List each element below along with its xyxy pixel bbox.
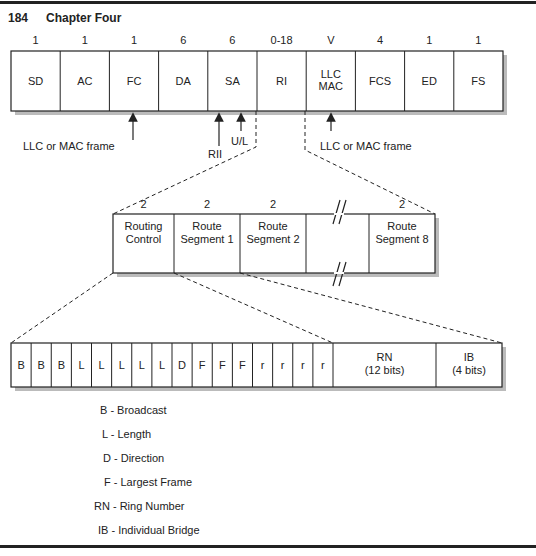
frame-field-llc-mac: LLCMAC — [319, 68, 344, 92]
bit-cell-l: L — [99, 359, 105, 371]
frame-field-sa: SA — [225, 75, 240, 87]
top-rule — [0, 1, 536, 4]
ri-field-label: Routing — [125, 220, 163, 232]
frame-field-size: 6 — [180, 34, 186, 46]
chapter-title: Chapter Four — [46, 11, 122, 25]
bit-cell-r: r — [301, 359, 305, 371]
legend-item: RN - Ring Number — [94, 500, 185, 512]
bit-cell-f: F — [239, 359, 246, 371]
bit-cell-r: r — [281, 359, 285, 371]
frame-field-sd: SD — [28, 75, 43, 87]
page-number: 184 — [8, 11, 28, 25]
frame-field-size: 4 — [377, 34, 383, 46]
frame-field-fcs: FCS — [369, 75, 391, 87]
bit-cell-b: B — [58, 359, 65, 371]
bit-cell-d: D — [178, 359, 186, 371]
legend-item: B - Broadcast — [100, 404, 167, 416]
frame-field-label: FCS — [369, 75, 391, 87]
frame-field-size: 0-18 — [271, 34, 293, 46]
ri-field-size: 2 — [140, 198, 146, 210]
frame-field-ac: AC — [77, 75, 92, 87]
legend-item: IB - Individual Bridge — [98, 524, 200, 536]
frame-field-da: DA — [176, 75, 192, 87]
ri-field-label: Route — [192, 220, 221, 232]
ib-field-label: (4 bits) — [452, 364, 486, 376]
ri-field-label: Route — [387, 220, 416, 232]
rii-label: RII — [208, 148, 222, 160]
frame-field-size: 1 — [426, 34, 432, 46]
bit-cell-l: L — [139, 359, 145, 371]
rn-field-label: RN — [377, 351, 393, 363]
bit-cell-f: F — [219, 359, 226, 371]
ri-field-label: Control — [126, 233, 161, 245]
legend-item: D - Direction — [103, 452, 164, 464]
routing-control-bits: BBBLLLLLDFFFrrrrRN(12 bits)IB(4 bits) — [11, 343, 506, 391]
ib-field-label: IB — [464, 351, 474, 363]
frame-field-label: DA — [176, 75, 192, 87]
right-llc-mac-label: LLC or MAC frame — [320, 140, 412, 152]
bit-cell-b: B — [38, 359, 45, 371]
frame-field-label: ED — [422, 75, 437, 87]
ul-label: U/L — [231, 135, 248, 147]
bit-cell-r: r — [321, 359, 325, 371]
legend: B - BroadcastL - LengthD - DirectionF - … — [94, 404, 200, 536]
frame-field-size: 1 — [82, 34, 88, 46]
bit-cell-f: F — [199, 359, 206, 371]
bit-cell-l: L — [78, 359, 84, 371]
frame-field-label: RI — [276, 75, 287, 87]
bit-cell-r: r — [261, 359, 265, 371]
frame-format: 1SD1AC1FC6DA6SA0-18RIVLLCMAC4FCS1ED1FS — [11, 34, 507, 115]
frame-field-label: FC — [127, 75, 142, 87]
frame-field-fc: FC — [127, 75, 142, 87]
ri-field-size: 2 — [399, 198, 405, 210]
legend-item: L - Length — [102, 428, 151, 440]
frame-field-label: SA — [225, 75, 240, 87]
frame-field-size: 1 — [33, 34, 39, 46]
frame-field-size: V — [327, 34, 335, 46]
frame-field-ri: RI — [276, 75, 287, 87]
left-llc-mac-label: LLC or MAC frame — [23, 140, 115, 152]
bit-cell-l: L — [119, 359, 125, 371]
bottom-rule — [0, 545, 536, 548]
frame-field-size: 1 — [475, 34, 481, 46]
frame-field-label: FS — [471, 75, 485, 87]
frame-field-label: SD — [28, 75, 43, 87]
ri-field-label: Segment 1 — [180, 233, 233, 245]
routing-information-field: 2RoutingControl2RouteSegment 12RouteSegm… — [113, 198, 439, 286]
ri-field-label: Segment 2 — [246, 233, 299, 245]
frame-field-fs: FS — [471, 75, 485, 87]
bit-cell-l: L — [159, 359, 165, 371]
frame-field-label: AC — [77, 75, 92, 87]
ri-field-label: Segment 8 — [375, 233, 428, 245]
legend-item: F - Largest Frame — [104, 476, 192, 488]
ri-field-size: 2 — [270, 198, 276, 210]
frame-field-label: MAC — [319, 80, 344, 92]
frame-field-label: LLC — [321, 68, 341, 80]
frame-field-ed: ED — [422, 75, 437, 87]
rn-field-label: (12 bits) — [365, 364, 405, 376]
bit-cell-b: B — [17, 359, 24, 371]
ri-field-size: 2 — [204, 198, 210, 210]
frame-field-size: 1 — [131, 34, 137, 46]
frame-field-size: 6 — [229, 34, 235, 46]
ri-field-label: Route — [258, 220, 287, 232]
token-ring-frame-diagram: 184 Chapter Four 1SD1AC1FC6DA6SA0-18RIVL… — [0, 0, 536, 556]
expansion-lines-rc — [11, 273, 502, 343]
